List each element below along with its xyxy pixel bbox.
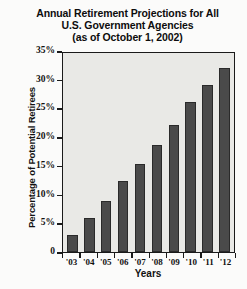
chart-container: Annual Retirement Projections for All U.…: [0, 0, 247, 289]
bar-11: [202, 85, 213, 252]
bar-03: [67, 235, 78, 252]
x-axis-tick-mark: [235, 253, 236, 258]
y-axis-tick-label: 0: [50, 246, 55, 256]
x-axis-tick-label: '12: [217, 257, 233, 267]
chart-title-line-2: U.S. Government Agencies: [20, 20, 235, 32]
y-axis-tick-label: 10%: [36, 189, 55, 199]
bar-06: [118, 181, 129, 252]
y-axis-tick-label: 5%: [41, 217, 55, 227]
bar-12: [219, 68, 230, 252]
y-axis-tick-label: 30%: [36, 74, 55, 84]
x-axis-labels: '03'04'05'06'07'08'09'10'11'12: [62, 257, 235, 267]
x-axis-tick-label: '09: [166, 257, 182, 267]
bar-04: [84, 218, 95, 252]
x-axis-tick-label: '05: [98, 257, 114, 267]
x-axis-tick-label: '11: [200, 257, 216, 267]
chart-title-line-3: (as of October 1, 2002): [20, 32, 235, 44]
x-axis-tick-label: '04: [81, 257, 97, 267]
y-axis-tick-label: 35%: [36, 45, 55, 55]
x-axis-tick-label: '10: [183, 257, 199, 267]
y-axis-tick-label: 15%: [36, 160, 55, 170]
bar-09: [169, 125, 180, 252]
y-axis: 35% 30% 25% 20% 15% 10% 5% 0: [0, 52, 62, 253]
x-axis-tick-label: '03: [64, 257, 80, 267]
plot-area: [62, 52, 235, 253]
bar-10: [185, 102, 196, 252]
bar-series: [63, 53, 234, 252]
bar-05: [101, 201, 112, 252]
bar-07: [135, 164, 146, 252]
x-axis-tick-label: '06: [115, 257, 131, 267]
x-axis-tick-label: '07: [132, 257, 148, 267]
x-axis-title: Years: [60, 268, 236, 279]
y-axis-tick-label: 20%: [36, 131, 55, 141]
x-axis-tick-label: '08: [149, 257, 165, 267]
chart-title: Annual Retirement Projections for All U.…: [20, 8, 235, 43]
bar-08: [152, 145, 163, 252]
y-axis-tick-label: 25%: [36, 102, 55, 112]
